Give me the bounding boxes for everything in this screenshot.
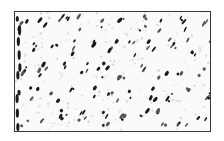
texture-swatch	[14, 11, 211, 132]
image-canvas	[0, 0, 224, 141]
texture-pattern	[15, 12, 210, 131]
